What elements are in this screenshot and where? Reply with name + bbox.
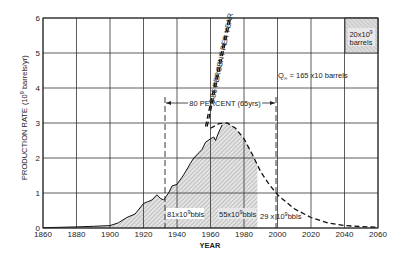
x-tick-label: 1980 [235, 230, 253, 239]
svg-text:55x109bbls: 55x109bbls [219, 209, 257, 219]
svg-text:29 x 109bbls: 29 x 109bbls [260, 211, 302, 221]
x-tick-label: 2040 [336, 230, 354, 239]
x-tick-label: 1940 [168, 230, 186, 239]
grid [43, 18, 378, 228]
x-tick-label: 1880 [68, 230, 86, 239]
x-tick-label: 1920 [135, 230, 153, 239]
region-label-1: 81x109bbls [166, 208, 205, 219]
svg-text:81x109bbls: 81x109bbls [167, 209, 205, 219]
region-label-2: 55x109bbls [218, 208, 257, 219]
y-tick-label: 2 [36, 154, 41, 163]
eighty-percent-annotation: 80 PERCENT (65yrs) [166, 99, 275, 108]
eighty-percent-label: 80 PERCENT (65yrs) [189, 99, 261, 108]
y-tick-label: 6 [36, 14, 41, 23]
x-tick-label: 1900 [101, 230, 119, 239]
growth-rate-label: 5.86 PERCENT PER YEAR [207, 12, 235, 105]
q-infinity-label: Q∞ = 165 x10 barrels [278, 71, 348, 81]
y-tick-label: 0 [36, 224, 41, 233]
y-tick-label: 5 [36, 49, 41, 58]
x-tick-label: 1960 [202, 230, 220, 239]
y-tick-label: 1 [36, 189, 41, 198]
x-tick-label: 2060 [369, 230, 387, 239]
legend-unit: barrels [350, 38, 373, 47]
x-axis-label: YEAR [200, 241, 221, 250]
y-tick-label: 4 [36, 84, 41, 93]
y-tick-label: 3 [36, 119, 41, 128]
y-axis-label: PRODUCTION RATE(109 barrels/yr) [19, 55, 29, 180]
legend: 20x109 barrels [345, 18, 378, 53]
region-label-3: 29 x 109bbls [260, 211, 302, 221]
x-tick-label: 2020 [302, 230, 320, 239]
x-tick-label: 2000 [269, 230, 287, 239]
production-rate-chart: 1860188019001920194019601980200020202040… [0, 0, 407, 265]
